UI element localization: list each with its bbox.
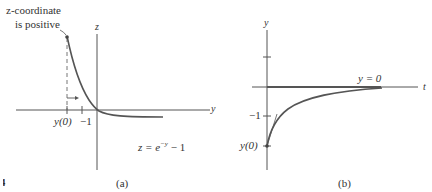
panel-a-caption: (a) [116, 178, 128, 189]
panel-a-tick-label-minus-one: −1 [80, 116, 92, 127]
panel-b-tick-label-y0: y(0) [240, 140, 258, 151]
panel-a-annotation-line1: z-coordinate [6, 5, 61, 16]
panel-b-solution-curve [267, 88, 382, 146]
panel-a-tick-label-y0: y(0) [54, 116, 72, 127]
panel-b-vertical-axis-label: y [264, 18, 268, 28]
equation-exponent: −y [160, 140, 168, 148]
panel-a-annotation-line2: is positive [15, 19, 60, 30]
equation-lhs: z = e [138, 141, 160, 153]
panel-a-vertical-axis-label: z [95, 22, 99, 32]
equation-rhs: − 1 [168, 141, 185, 153]
panel-b-tangent-segment [267, 114, 277, 146]
arrowhead-icon [75, 96, 79, 100]
panel-a-curve [67, 36, 163, 117]
panel-b-horizontal-axis-label: t [423, 82, 426, 92]
panel-a-horizontal-axis-label: y [211, 104, 215, 114]
panel-b-equilibrium-label: y = 0 [358, 73, 381, 84]
panel-b [252, 30, 418, 170]
panel-b-tick-label-minus-one: −1 [249, 110, 261, 121]
panel-a-equation: z = e−y − 1 [138, 141, 185, 153]
panel-b-caption: (b) [338, 178, 351, 189]
panel-a-initial-point [65, 35, 69, 39]
panel-b-initial-point [265, 144, 269, 148]
panel-a-annotation-arrow [60, 30, 66, 35]
figure-canvas [0, 0, 432, 192]
